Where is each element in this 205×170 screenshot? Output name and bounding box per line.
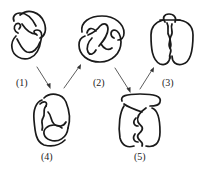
knot-5-label: (5) xyxy=(134,152,146,162)
knot-1-label: (1) xyxy=(16,78,28,88)
knot-1-drawing xyxy=(12,11,46,58)
arrow-5-to-3 xyxy=(140,67,154,89)
knot-3-drawing xyxy=(151,14,193,65)
arrow-2-to-5 xyxy=(115,68,131,93)
knot-2-drawing xyxy=(79,16,124,62)
arrow-4-to-2 xyxy=(64,64,81,88)
arrow-1-to-4 xyxy=(37,67,51,89)
knot-4-label: (4) xyxy=(41,152,53,162)
knot-3-label: (3) xyxy=(162,78,174,88)
knot-5-drawing xyxy=(119,94,160,147)
knot-2-label: (2) xyxy=(93,78,105,88)
knot-4-drawing xyxy=(34,94,70,146)
